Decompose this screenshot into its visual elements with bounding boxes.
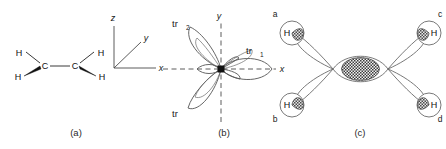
hydrogen-c-atom-label: H: [431, 28, 438, 38]
orbital-label-tr3: tr: [172, 108, 178, 119]
hydrogen-b-atom-label: H: [284, 100, 291, 110]
hydrogen-d-atom-label: H: [431, 100, 438, 110]
axis-label-y: y: [143, 33, 149, 43]
axis-label-x: x: [158, 63, 164, 73]
orbital-label-tr2-subscript: 2: [186, 24, 190, 31]
figure-canvas: H H C C H H z y x (a) y x: [0, 0, 446, 149]
caption-a: (a): [70, 127, 82, 138]
atom-label-c-right: C: [72, 61, 79, 71]
central-bond-overlap-region: [342, 58, 380, 81]
hydrogen-a-atom-label: H: [284, 28, 291, 38]
orbital-label-tr1-subscript: 1: [260, 51, 264, 58]
caption-c: (c): [354, 127, 365, 138]
orbital-label-tr2: tr: [172, 18, 178, 29]
caption-b: (b): [218, 127, 230, 138]
hydrogen-a-id-label: a: [273, 9, 278, 19]
orbital-label-tr1: tr: [246, 45, 252, 56]
panel-b-axis-label-y: y: [216, 11, 222, 21]
atom-label-h-lower-right: H: [99, 72, 106, 82]
atom-label-h-upper-right: H: [98, 48, 105, 58]
axis-label-z: z: [110, 13, 116, 23]
panel-b-axis-label-x: x: [279, 64, 285, 74]
hydrogen-d-id-label: d: [438, 114, 443, 124]
atom-label-h-lower-left: H: [15, 72, 22, 82]
atom-label-c-left: C: [42, 61, 49, 71]
hydrogen-b-id-label: b: [273, 114, 278, 124]
panel-b-nucleus-dot: [218, 66, 225, 73]
atom-label-h-upper-left: H: [16, 48, 23, 58]
chemistry-figure: H H C C H H z y x (a) y x: [0, 0, 446, 149]
